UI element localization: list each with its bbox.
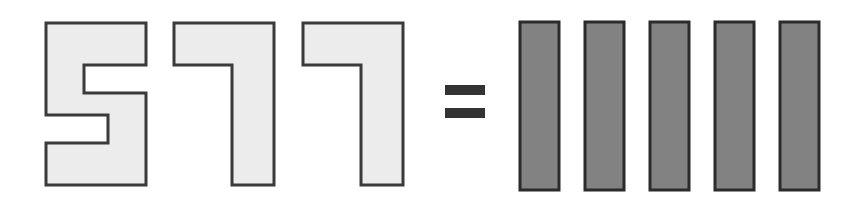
tally-bar-1 xyxy=(520,22,559,190)
digit-seven-second xyxy=(303,23,403,185)
tally-bar-3 xyxy=(650,22,689,190)
tally-bar-2 xyxy=(585,22,624,190)
tally-bars-group xyxy=(520,22,819,190)
figure-root xyxy=(0,0,860,217)
equals-sign-upper-stroke xyxy=(445,85,485,95)
digits-group xyxy=(46,23,403,185)
tally-bar-4 xyxy=(715,22,754,190)
digit-five xyxy=(46,23,146,185)
equals-sign xyxy=(445,85,485,118)
digit-seven-first xyxy=(174,23,274,185)
equals-sign-lower-stroke xyxy=(445,108,485,118)
image-canvas: 577 = five vertical bars xyxy=(0,0,860,217)
tally-bar-5 xyxy=(780,22,819,190)
